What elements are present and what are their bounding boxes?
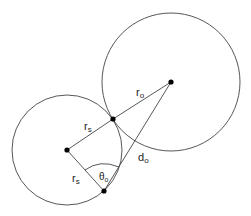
- label-r-s-upper: rs: [84, 120, 92, 134]
- label-r-s-lower: rs: [72, 172, 80, 186]
- point-large-center: [168, 79, 173, 84]
- radius-line-large: [113, 82, 171, 119]
- radius-line-small-upper: [67, 119, 113, 150]
- distance-line-d-o: [104, 82, 171, 191]
- tangent-circles-diagram: ro rs rs do θo: [0, 0, 251, 216]
- label-r-o: ro: [136, 86, 145, 100]
- angle-arc-theta: [85, 164, 119, 170]
- point-small-center: [64, 147, 69, 152]
- point-contact: [110, 116, 115, 121]
- label-d-o: do: [138, 151, 149, 165]
- point-bottom: [101, 188, 106, 193]
- label-theta-o: θo: [99, 171, 109, 183]
